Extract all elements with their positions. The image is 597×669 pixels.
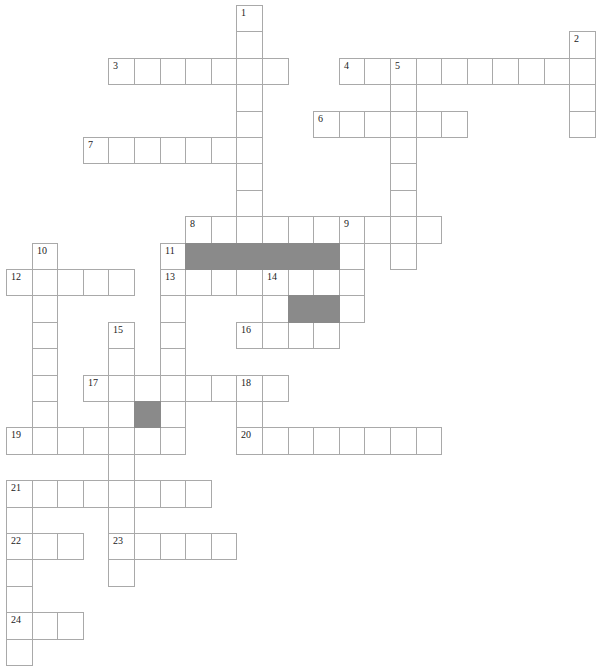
- grid-cell[interactable]: [134, 375, 161, 402]
- grid-cell[interactable]: [339, 243, 365, 270]
- grid-cell[interactable]: [236, 190, 263, 217]
- grid-cell[interactable]: [313, 269, 340, 296]
- grid-cell[interactable]: 7: [83, 137, 109, 164]
- grid-cell[interactable]: [32, 480, 58, 508]
- grid-cell[interactable]: [160, 480, 186, 508]
- grid-cell[interactable]: [108, 137, 135, 164]
- grid-cell[interactable]: 19: [6, 427, 33, 455]
- grid-cell[interactable]: [262, 216, 289, 244]
- grid-cell[interactable]: [313, 427, 340, 455]
- grid-cell[interactable]: [134, 58, 161, 85]
- grid-cell[interactable]: [390, 111, 417, 138]
- grid-cell[interactable]: [108, 454, 135, 481]
- grid-cell[interactable]: [262, 322, 289, 349]
- grid-cell[interactable]: 5: [390, 58, 417, 85]
- grid-cell[interactable]: [211, 137, 237, 164]
- grid-cell[interactable]: [211, 533, 237, 560]
- grid-cell[interactable]: [313, 216, 340, 244]
- grid-cell[interactable]: [390, 427, 417, 455]
- grid-cell[interactable]: [32, 401, 58, 428]
- grid-cell[interactable]: [262, 427, 289, 455]
- grid-cell[interactable]: [339, 111, 365, 138]
- grid-cell[interactable]: [160, 58, 186, 85]
- grid-cell[interactable]: [416, 58, 442, 85]
- grid-cell[interactable]: [544, 58, 570, 85]
- grid-cell[interactable]: [160, 533, 186, 560]
- grid-cell[interactable]: [57, 612, 84, 640]
- grid-cell[interactable]: [236, 137, 263, 164]
- grid-cell[interactable]: 22: [6, 533, 33, 560]
- grid-cell[interactable]: [185, 137, 212, 164]
- grid-cell[interactable]: [108, 348, 135, 376]
- grid-cell[interactable]: [32, 348, 58, 376]
- grid-cell[interactable]: [32, 375, 58, 402]
- grid-cell[interactable]: [185, 533, 212, 560]
- grid-cell[interactable]: [83, 269, 109, 296]
- grid-cell[interactable]: [32, 322, 58, 349]
- grid-cell[interactable]: [32, 612, 58, 640]
- grid-cell[interactable]: [441, 111, 468, 138]
- grid-cell[interactable]: [390, 163, 417, 191]
- grid-cell[interactable]: [236, 269, 263, 296]
- grid-cell[interactable]: [364, 427, 391, 455]
- grid-cell[interactable]: 24: [6, 612, 33, 640]
- grid-cell[interactable]: 23: [108, 533, 135, 560]
- grid-cell[interactable]: [211, 58, 237, 85]
- grid-cell[interactable]: [390, 84, 417, 112]
- grid-cell[interactable]: [569, 111, 596, 138]
- grid-cell[interactable]: [160, 427, 186, 455]
- grid-cell[interactable]: [262, 58, 289, 85]
- grid-cell[interactable]: [236, 401, 263, 428]
- grid-cell[interactable]: [108, 480, 135, 508]
- grid-cell[interactable]: [160, 137, 186, 164]
- grid-cell[interactable]: [569, 58, 596, 85]
- grid-cell[interactable]: [288, 216, 314, 244]
- grid-cell[interactable]: [57, 427, 84, 455]
- grid-cell[interactable]: [416, 427, 442, 455]
- grid-cell[interactable]: 2: [569, 31, 596, 59]
- grid-cell[interactable]: 13: [160, 269, 186, 296]
- grid-cell[interactable]: [569, 84, 596, 112]
- grid-cell[interactable]: 14: [262, 269, 289, 296]
- grid-cell[interactable]: [518, 58, 545, 85]
- grid-cell[interactable]: [416, 216, 442, 244]
- grid-cell[interactable]: [185, 269, 212, 296]
- grid-cell[interactable]: [390, 137, 417, 164]
- grid-cell[interactable]: [236, 84, 263, 112]
- grid-cell[interactable]: [364, 111, 391, 138]
- grid-cell[interactable]: [160, 375, 186, 402]
- grid-cell[interactable]: [236, 163, 263, 191]
- grid-cell[interactable]: 10: [32, 243, 58, 270]
- grid-cell[interactable]: [6, 639, 33, 666]
- grid-cell[interactable]: [32, 269, 58, 296]
- grid-cell[interactable]: [390, 190, 417, 217]
- grid-cell[interactable]: [160, 322, 186, 349]
- grid-cell[interactable]: 1: [236, 5, 263, 32]
- grid-cell[interactable]: [108, 269, 135, 296]
- grid-cell[interactable]: 11: [160, 243, 186, 270]
- grid-cell[interactable]: [185, 480, 212, 508]
- grid-cell[interactable]: [83, 427, 109, 455]
- grid-cell[interactable]: [339, 295, 365, 323]
- grid-cell[interactable]: [57, 269, 84, 296]
- grid-cell[interactable]: [339, 269, 365, 296]
- grid-cell[interactable]: [160, 295, 186, 323]
- grid-cell[interactable]: 3: [108, 58, 135, 85]
- grid-cell[interactable]: 9: [339, 216, 365, 244]
- grid-cell[interactable]: [108, 507, 135, 534]
- grid-cell[interactable]: [32, 295, 58, 323]
- grid-cell[interactable]: [236, 216, 263, 244]
- grid-cell[interactable]: [416, 111, 442, 138]
- grid-cell[interactable]: [262, 375, 289, 402]
- grid-cell[interactable]: 17: [83, 375, 109, 402]
- grid-cell[interactable]: 6: [313, 111, 340, 138]
- grid-cell[interactable]: [288, 269, 314, 296]
- grid-cell[interactable]: [339, 427, 365, 455]
- grid-cell[interactable]: [492, 58, 519, 85]
- grid-cell[interactable]: 12: [6, 269, 33, 296]
- grid-cell[interactable]: [185, 375, 212, 402]
- grid-cell[interactable]: [364, 58, 391, 85]
- grid-cell[interactable]: 4: [339, 58, 365, 85]
- grid-cell[interactable]: [57, 533, 84, 560]
- grid-cell[interactable]: [288, 427, 314, 455]
